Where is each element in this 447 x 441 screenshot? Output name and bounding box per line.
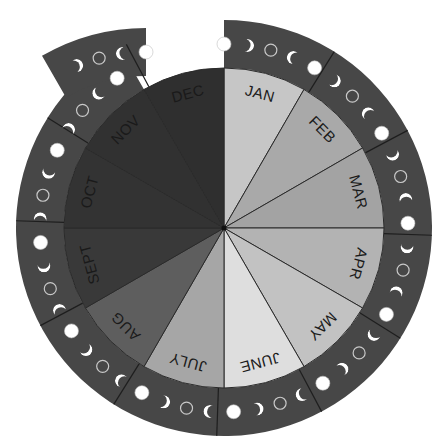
month-pie — [64, 68, 384, 388]
full-moon-icon — [135, 386, 149, 400]
waning-crescent-moon-icon — [203, 405, 216, 418]
full-moon-icon — [139, 45, 153, 59]
waning-crescent-moon-icon — [53, 304, 66, 317]
full-moon-icon — [316, 376, 330, 390]
waning-crescent-moon-icon — [241, 39, 254, 52]
waxing-crescent-moon-icon — [399, 193, 412, 206]
waxing-crescent-moon-icon — [251, 402, 264, 415]
full-moon-icon — [34, 235, 48, 249]
full-moon-icon — [110, 71, 124, 85]
lunar-calendar-wheel: JANFEBMARAPRMAYJUNEJULYAUGSEPTOCTNOVDEC — [0, 0, 447, 441]
full-moon-icon — [227, 405, 241, 419]
waxing-crescent-moon-icon — [42, 166, 55, 179]
full-moon-icon — [401, 216, 415, 230]
waning-crescent-moon-icon — [70, 59, 83, 72]
waning-crescent-moon-icon — [386, 148, 399, 161]
waning-crescent-moon-icon — [401, 240, 414, 253]
waning-crescent-moon-icon — [328, 74, 341, 87]
waxing-crescent-moon-icon — [79, 343, 92, 356]
full-moon-icon — [379, 307, 393, 321]
waning-crescent-moon-icon — [115, 374, 128, 387]
waxing-crescent-moon-icon — [390, 286, 403, 299]
wheel-center-pin — [222, 226, 227, 231]
full-moon-icon — [375, 126, 389, 140]
waxing-crescent-moon-icon — [116, 47, 129, 60]
waning-crescent-moon-icon — [296, 388, 309, 401]
waning-crescent-moon-icon — [34, 212, 47, 225]
waning-crescent-moon-icon — [368, 328, 381, 341]
full-moon-icon — [50, 143, 64, 157]
waning-crescent-moon-icon — [62, 123, 75, 136]
waxing-crescent-moon-icon — [157, 395, 170, 408]
waxing-crescent-moon-icon — [92, 87, 105, 100]
full-moon-icon — [64, 324, 78, 338]
waxing-crescent-moon-icon — [287, 51, 300, 64]
waxing-crescent-moon-icon — [335, 363, 348, 376]
full-moon-icon — [217, 37, 231, 51]
full-moon-icon — [308, 61, 322, 75]
waxing-crescent-moon-icon — [37, 259, 50, 272]
waxing-crescent-moon-icon — [362, 107, 375, 120]
